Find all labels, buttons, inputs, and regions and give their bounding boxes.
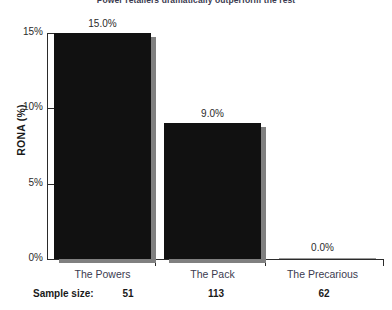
y-tick-label-10: 10% xyxy=(1,101,43,112)
category-label-the-powers: The Powers xyxy=(54,268,151,280)
bar-value-label-the-precarious: 0.0% xyxy=(274,242,371,253)
y-tick-label-wrap-0: 0% xyxy=(0,259,43,260)
y-tick-label-0: 0% xyxy=(1,252,43,263)
bar-zero-line-the-precarious xyxy=(279,258,376,259)
y-tick-label-5: 5% xyxy=(1,177,43,188)
bar-body-the-pack xyxy=(164,123,261,259)
sample-size-label: Sample size: xyxy=(33,288,94,299)
bar-value-label-the-pack: 9.0% xyxy=(164,108,261,119)
bar-value-label-the-powers: 15.0% xyxy=(54,18,151,29)
plot-area: 15.0% 9.0% 0.0% xyxy=(47,33,384,259)
y-tick-label-wrap-15: 15% xyxy=(0,33,43,34)
sample-size-value-the-powers: 51 xyxy=(108,288,148,299)
bar-the-pack[interactable]: 9.0% xyxy=(164,123,261,259)
category-label-the-precarious: The Precarious xyxy=(274,268,371,280)
bar-the-powers[interactable]: 15.0% xyxy=(54,33,151,259)
x-axis-end-cap xyxy=(383,260,384,266)
y-axis-title: RONA (%) xyxy=(15,85,27,175)
y-tick-label-wrap-10: 10% xyxy=(0,108,43,109)
sample-size-value-the-pack: 113 xyxy=(196,288,236,299)
y-tick-label-15: 15% xyxy=(1,26,43,37)
y-tick-label-wrap-5: 5% xyxy=(0,184,43,185)
bar-body-the-powers xyxy=(54,33,151,259)
chart-title: Power retailers dramatically outperform … xyxy=(0,0,392,5)
category-label-the-pack: The Pack xyxy=(164,268,261,280)
sample-size-value-the-precarious: 62 xyxy=(304,288,344,299)
